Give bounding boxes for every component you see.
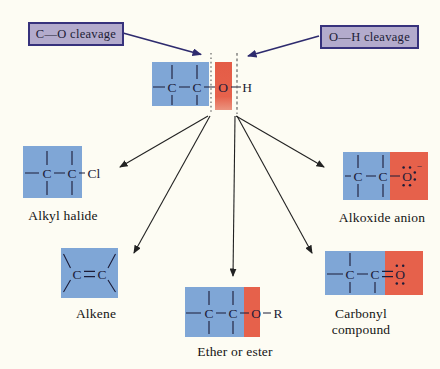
c-o-cleavage-callout: C—O cleavage	[28, 22, 124, 46]
alkyl-halide-caption: Alkyl halide	[8, 208, 118, 224]
negative-charge: −	[417, 162, 422, 172]
atom-carbon: C	[228, 306, 237, 321]
atom-hydrogen: H	[242, 80, 252, 95]
atom-oxygen: O	[251, 306, 261, 321]
atom-carbon: C	[97, 267, 106, 282]
o-h-cleavage-callout: O—H cleavage	[320, 25, 419, 49]
o-h-callout-arrow	[248, 36, 319, 56]
ether-or-ester-molecule: C C O R	[185, 287, 283, 337]
atom-r-group: R	[273, 306, 282, 321]
carbonyl-compound-molecule: C C O	[325, 251, 423, 295]
product-arrows	[120, 116, 324, 276]
alkene-caption: Alkene	[41, 306, 151, 322]
atom-carbon: C	[192, 80, 201, 95]
atom-carbon: C	[204, 306, 213, 321]
ether-or-ester-caption: Ether or ester	[180, 344, 290, 360]
carbon-region-highlight	[61, 248, 118, 298]
atom-oxygen: O	[395, 267, 405, 282]
alkyl-halide-molecule: C C Cl	[23, 146, 101, 198]
atom-carbon: C	[42, 166, 51, 181]
atom-carbon: C	[353, 169, 362, 184]
alkoxide-anion-caption: Alkoxide anion	[327, 210, 437, 226]
atom-carbon: C	[72, 267, 81, 282]
alkene-molecule: C C	[61, 248, 118, 298]
atom-carbon: C	[378, 169, 387, 184]
atom-carbon: C	[370, 267, 379, 282]
arrow-to-ether-or-ester	[233, 116, 235, 276]
cleavage-diagram: C C O H C C Cl	[0, 0, 440, 369]
arrow-to-alkyl-halide	[120, 116, 208, 167]
atom-carbon: C	[167, 80, 176, 95]
carbonyl-compound-caption: Carbonyl compound	[306, 306, 416, 338]
atom-oxygen: O	[218, 80, 228, 95]
atom-chlorine: Cl	[88, 166, 101, 181]
c-o-callout-arrow	[123, 33, 201, 55]
atom-carbon: C	[67, 166, 76, 181]
arrow-to-alkoxide-anion	[236, 116, 324, 167]
alkoxide-anion-molecule: C C O −	[343, 152, 428, 200]
arrow-to-carbonyl-compound	[237, 116, 312, 253]
atom-carbon: C	[345, 267, 354, 282]
atom-oxygen: O	[402, 169, 412, 184]
